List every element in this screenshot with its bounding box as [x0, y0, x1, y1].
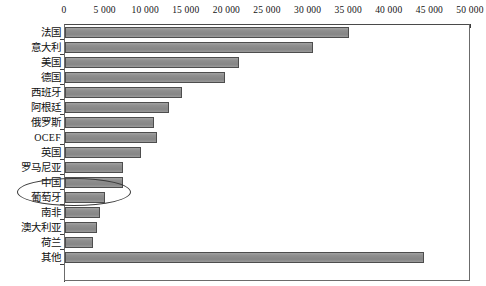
chart-row: 罗马尼亚: [0, 160, 486, 175]
bar: [65, 252, 424, 263]
chart-row: 美国: [0, 55, 486, 70]
category-label: 荷兰: [0, 235, 64, 250]
bar: [65, 222, 97, 233]
chart-row: 南非: [0, 205, 486, 220]
category-label: OCEF: [0, 130, 64, 145]
y-axis-tick-mark: [60, 264, 64, 265]
category-label: 西班牙: [0, 85, 64, 100]
bar: [65, 42, 313, 53]
chart-rows: 法国意大利美国德国西班牙阿根廷俄罗斯OCEF英国罗马尼亚中国葡萄牙南非澳大利亚荷…: [0, 24, 486, 281]
category-label: 其他: [0, 250, 64, 265]
bar: [65, 72, 225, 83]
bar: [65, 177, 123, 188]
category-label: 中国: [0, 175, 64, 190]
bar: [65, 192, 105, 203]
chart-row: 俄罗斯: [0, 115, 486, 130]
chart-row: OCEF: [0, 130, 486, 145]
x-axis-tick-label: 25 000: [253, 5, 280, 16]
category-label: 葡萄牙: [0, 190, 64, 205]
category-label: 罗马尼亚: [0, 160, 64, 175]
chart-row: 其他: [0, 250, 486, 265]
chart-row: 西班牙: [0, 85, 486, 100]
chart-row: 澳大利亚: [0, 220, 486, 235]
bar: [65, 147, 141, 158]
bar: [65, 117, 154, 128]
category-label: 英国: [0, 145, 64, 160]
x-axis-tick-label: 50 000: [456, 5, 483, 16]
category-label: 俄罗斯: [0, 115, 64, 130]
bar: [65, 132, 157, 143]
bar: [65, 237, 93, 248]
x-axis-tick-label: 35 000: [335, 5, 362, 16]
bar: [65, 102, 169, 113]
chart-row: 英国: [0, 145, 486, 160]
bar-chart: 05 00010 00015 00020 00025 00030 00035 0…: [0, 0, 486, 286]
x-axis-tick-label: 5 000: [93, 5, 115, 16]
chart-row: 法国: [0, 25, 486, 40]
bar: [65, 57, 239, 68]
x-axis-tick-labels: 05 00010 00015 00020 00025 00030 00035 0…: [0, 0, 486, 24]
x-axis-tick-label: 45 000: [416, 5, 443, 16]
x-axis-tick-label: 15 000: [172, 5, 199, 16]
chart-row: 德国: [0, 70, 486, 85]
chart-row: 中国: [0, 175, 486, 190]
category-label: 法国: [0, 25, 64, 40]
chart-row: 阿根廷: [0, 100, 486, 115]
category-label: 澳大利亚: [0, 220, 64, 235]
bar: [65, 207, 100, 218]
chart-row: 葡萄牙: [0, 190, 486, 205]
x-axis-tick-label: 20 000: [213, 5, 240, 16]
category-label: 阿根廷: [0, 100, 64, 115]
bar: [65, 162, 123, 173]
x-axis-tick-label: 40 000: [375, 5, 402, 16]
x-axis-tick-label: 30 000: [294, 5, 321, 16]
category-label: 意大利: [0, 40, 64, 55]
chart-row: 荷兰: [0, 235, 486, 250]
chart-row: 意大利: [0, 40, 486, 55]
bar: [65, 87, 182, 98]
category-label: 德国: [0, 70, 64, 85]
bar: [65, 27, 349, 38]
x-axis-tick-label: 10 000: [132, 5, 159, 16]
x-axis-tick-label: 0: [62, 5, 67, 16]
category-label: 南非: [0, 205, 64, 220]
category-label: 美国: [0, 55, 64, 70]
